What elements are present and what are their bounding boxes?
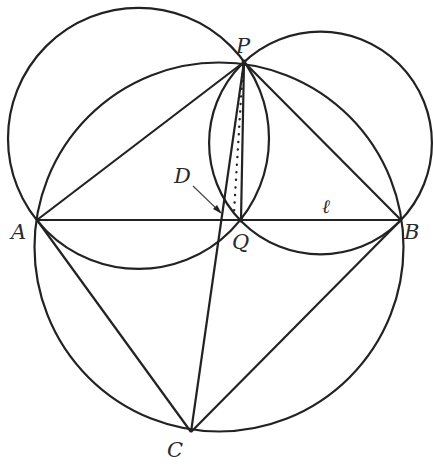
diagram-canvas: [0, 0, 433, 467]
label-q: Q: [232, 232, 249, 253]
segment-ac: [37, 220, 191, 432]
label-c: C: [167, 440, 183, 461]
label-p: P: [236, 36, 250, 57]
label-line-l: ℓ: [322, 197, 330, 216]
point-q: [239, 218, 244, 223]
label-d: D: [174, 166, 191, 187]
label-b: B: [404, 222, 419, 243]
point-p: [242, 60, 247, 65]
geometry-diagram: P A B Q C D ℓ: [0, 0, 433, 467]
label-a: A: [11, 222, 26, 243]
circle-apbc: [35, 63, 404, 432]
circle-apq: [8, 8, 269, 269]
